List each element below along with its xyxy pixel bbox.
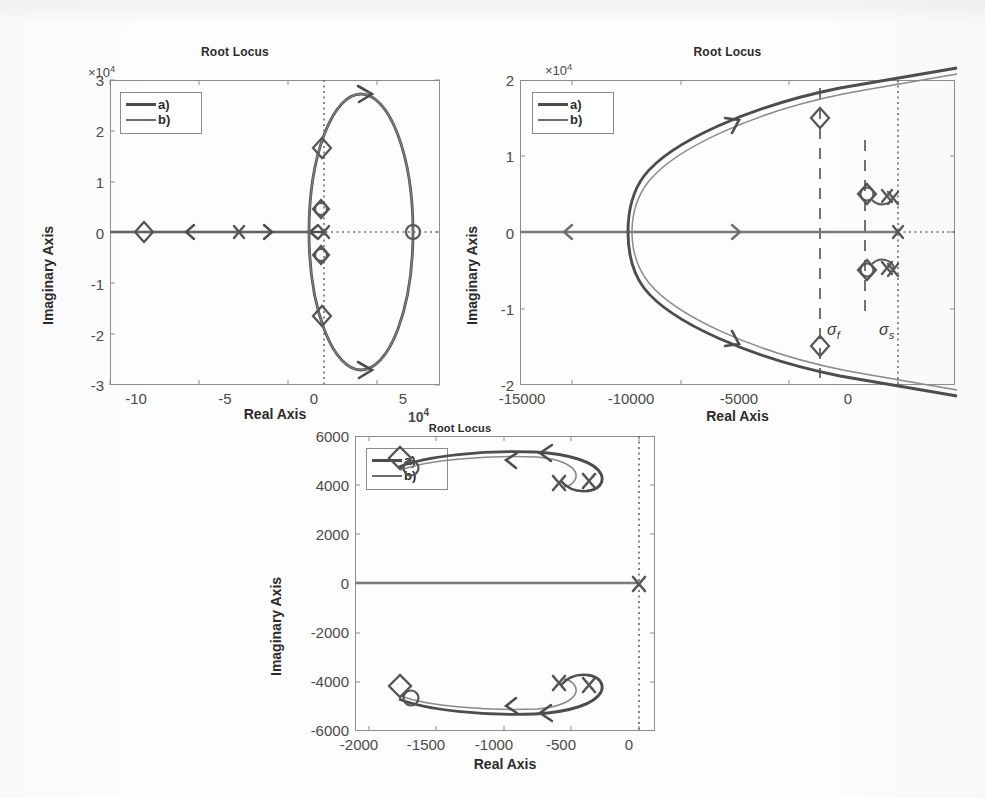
- locus-upper-branch-a-3: [399, 452, 602, 491]
- locus-lower-branch-a-2: [628, 232, 957, 396]
- plot-canvas-2: [470, 40, 985, 420]
- figure-root-locus-wide: Root Locus ×104 3 2 1 0 -1 -2 -3 -10 -5 …: [0, 40, 470, 415]
- plot-canvas-3: [230, 418, 750, 798]
- locus-lower-branch-a-3: [399, 675, 602, 714]
- figure-root-locus-mid: Root Locus ×104 2 1 0 -1 -2 -15000 -1000…: [470, 40, 985, 415]
- locus-upper-branch-a-2: [628, 68, 957, 232]
- diamond-markers-3: [389, 447, 411, 697]
- figure-root-locus-zoom: Root Locus 6000 4000 2000 0 -2000 -4000 …: [230, 418, 750, 798]
- plot-canvas-1: [0, 40, 470, 420]
